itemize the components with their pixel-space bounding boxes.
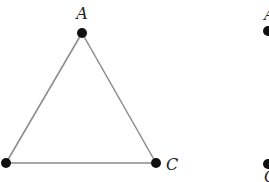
vertex-b [1, 158, 11, 168]
label-a: A [74, 4, 88, 23]
partial-label-a: A [262, 5, 269, 24]
triangle-edges [6, 33, 156, 163]
partial-vertex-top [263, 26, 269, 36]
vertex-c [151, 158, 161, 168]
edge-a-c [82, 33, 156, 163]
vertex-a [77, 28, 87, 38]
partial-label-c: C [264, 167, 269, 182]
partial-figure: A C [262, 5, 269, 182]
label-c: C [166, 155, 178, 174]
triangle-diagram: A C A C [0, 0, 269, 182]
edge-a-b [6, 33, 82, 163]
